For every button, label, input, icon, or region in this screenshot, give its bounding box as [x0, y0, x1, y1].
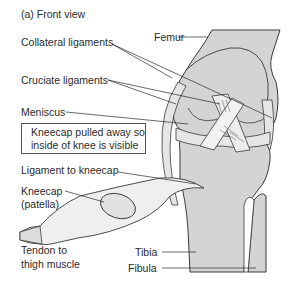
label-tibia: Tibia: [135, 246, 157, 258]
label-meniscus: Meniscus: [21, 106, 65, 118]
note-line-2: inside of knee is visible: [31, 139, 145, 152]
note-line-1: Kneecap pulled away so: [31, 126, 145, 139]
label-femur: Femur: [154, 31, 184, 43]
label-ligament-to-kneecap: Ligament to kneecap: [21, 164, 118, 176]
knee-diagram: (a) Front view Femur Collateral ligament…: [0, 0, 292, 281]
label-cruciate-ligaments: Cruciate ligaments: [21, 74, 108, 86]
label-collateral-ligaments: Collateral ligaments: [21, 36, 113, 48]
label-patella: (patella): [21, 198, 59, 210]
figure-title: (a) Front view: [21, 8, 85, 20]
label-kneecap: Kneecap: [21, 185, 62, 197]
label-tendon-line1: Tendon to: [21, 244, 67, 256]
label-tendon-line2: thigh muscle: [21, 258, 80, 270]
label-fibula: Fibula: [128, 262, 157, 274]
note-box: Kneecap pulled away so inside of knee is…: [21, 123, 146, 154]
